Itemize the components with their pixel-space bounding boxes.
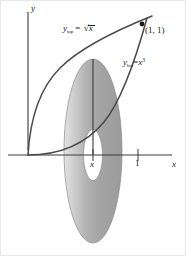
x-tick-label-x: x [90, 160, 94, 169]
intersection-point-dot [140, 22, 145, 27]
intersection-point-label: (1, 1) [145, 26, 165, 35]
y-axis-label: y [31, 4, 35, 13]
curve-label-y-bot: ybot=x3 [123, 58, 145, 67]
figure-graphics [0, 0, 186, 256]
curve-label-y-top-subscript: top [67, 29, 73, 34]
x-axis-label: x [172, 160, 176, 169]
curve-label-y-bot-subscript: bot [127, 63, 133, 68]
sqrt-icon: √x [83, 24, 93, 33]
curve-label-y-bot-exponent: 3 [142, 57, 145, 63]
radical-overbar-icon [88, 25, 95, 26]
curve-label-y-top-equals: = [75, 23, 80, 33]
figure-canvas: ytop = √x ybot=x3 (1, 1) y x x 1 [0, 0, 186, 256]
x-tick-label-one: 1 [135, 159, 140, 168]
curve-label-y-top: ytop = √x [63, 24, 93, 33]
